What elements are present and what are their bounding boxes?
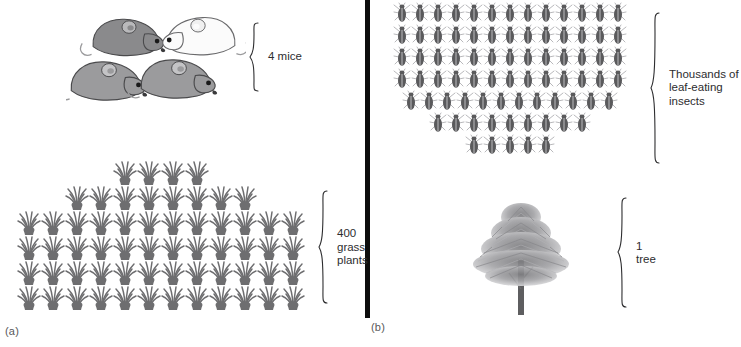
beetle-icon bbox=[501, 46, 519, 68]
grass-tuft-icon bbox=[161, 235, 185, 260]
grass-tuft-icon bbox=[281, 235, 305, 260]
beetle-icon bbox=[501, 68, 519, 90]
beetle-icon bbox=[483, 46, 501, 68]
beetle-icon bbox=[411, 24, 429, 46]
beetle-icon bbox=[582, 90, 600, 112]
beetle-icon bbox=[555, 2, 573, 24]
beetle-icon bbox=[591, 46, 609, 68]
grass-tuft-icon bbox=[41, 260, 65, 285]
beetle-icon bbox=[609, 68, 627, 90]
beetle-icon bbox=[519, 2, 537, 24]
curly-brace-icon bbox=[617, 197, 629, 309]
grass-plants-label: 400 grass plants bbox=[337, 227, 368, 268]
beetle-icon bbox=[591, 68, 609, 90]
beetle-icon bbox=[609, 2, 627, 24]
beetle-icon bbox=[609, 24, 627, 46]
grass-tuft-icon bbox=[161, 260, 185, 285]
organism-row bbox=[376, 90, 644, 112]
beetle-icon bbox=[474, 90, 492, 112]
grass-tuft-icon bbox=[233, 185, 257, 210]
grass-tuft-icon bbox=[113, 235, 137, 260]
beetle-icon bbox=[429, 68, 447, 90]
curly-brace-icon bbox=[650, 12, 662, 164]
grass-tuft-icon bbox=[161, 285, 185, 310]
beetle-icon bbox=[501, 24, 519, 46]
grass-tuft-icon bbox=[89, 285, 113, 310]
beetle-icon bbox=[555, 24, 573, 46]
beetle-icon bbox=[465, 2, 483, 24]
beetle-icon bbox=[555, 68, 573, 90]
grass-tuft-icon bbox=[185, 260, 209, 285]
beetle-icon bbox=[564, 90, 582, 112]
beetle-icon bbox=[573, 68, 591, 90]
beetle-icon bbox=[519, 68, 537, 90]
beetle-icon bbox=[465, 134, 483, 156]
organism-row bbox=[376, 46, 644, 68]
grass-tuft-icon bbox=[233, 285, 257, 310]
grass-tuft-icon bbox=[17, 285, 41, 310]
organism-row bbox=[6, 185, 316, 210]
beetle-icon bbox=[537, 68, 555, 90]
grass-tuft-icon bbox=[209, 185, 233, 210]
mice-brace-group: 4 mice bbox=[249, 22, 302, 92]
grass-tuft-icon bbox=[41, 285, 65, 310]
mouse-icon bbox=[66, 62, 147, 100]
organism-row bbox=[6, 235, 316, 260]
grass-brace-group: 400 grass plants bbox=[318, 190, 368, 305]
grass-tuft-icon bbox=[281, 210, 305, 235]
beetle-icon bbox=[483, 112, 501, 134]
grass-tuft-icon bbox=[113, 285, 137, 310]
grass-tuft-icon bbox=[17, 235, 41, 260]
beetle-icon bbox=[447, 2, 465, 24]
organism-row bbox=[6, 160, 316, 185]
beetle-icon bbox=[537, 24, 555, 46]
beetle-icon bbox=[537, 46, 555, 68]
beetle-icon bbox=[420, 90, 438, 112]
beetle-icon bbox=[519, 46, 537, 68]
grass-tuft-icon bbox=[209, 235, 233, 260]
grass-tuft-icon bbox=[161, 210, 185, 235]
beetle-icon bbox=[600, 90, 618, 112]
beetle-icon bbox=[393, 2, 411, 24]
tree-brace-group: 1 tree bbox=[617, 197, 656, 309]
organism-row bbox=[6, 210, 316, 235]
grass-tuft-icon bbox=[281, 285, 305, 310]
beetle-icon bbox=[519, 134, 537, 156]
beetle-icon bbox=[537, 2, 555, 24]
beetle-icon bbox=[483, 68, 501, 90]
beetle-icon bbox=[537, 112, 555, 134]
beetle-icon bbox=[573, 46, 591, 68]
insects-grid bbox=[376, 2, 644, 156]
grass-tuft-icon bbox=[257, 260, 281, 285]
beetle-icon bbox=[429, 24, 447, 46]
grass-tuft-icon bbox=[113, 160, 137, 185]
beetle-icon bbox=[447, 68, 465, 90]
grass-tuft-icon bbox=[137, 260, 161, 285]
grass-tuft-icon bbox=[41, 235, 65, 260]
beetle-icon bbox=[573, 24, 591, 46]
beetle-icon bbox=[555, 112, 573, 134]
organism-row bbox=[376, 2, 644, 24]
beetle-icon bbox=[393, 46, 411, 68]
beetle-icon bbox=[438, 90, 456, 112]
grass-tuft-icon bbox=[89, 260, 113, 285]
grass-tuft-icon bbox=[257, 285, 281, 310]
grass-tuft-icon bbox=[65, 235, 89, 260]
beetle-icon bbox=[483, 2, 501, 24]
grass-tuft-icon bbox=[41, 210, 65, 235]
organism-row bbox=[376, 112, 644, 134]
grass-tuft-icon bbox=[89, 185, 113, 210]
beetle-icon bbox=[447, 24, 465, 46]
beetle-icon bbox=[465, 112, 483, 134]
grass-tuft-icon bbox=[185, 235, 209, 260]
grass-tuft-icon bbox=[233, 260, 257, 285]
beetle-icon bbox=[411, 46, 429, 68]
beetle-icon bbox=[429, 2, 447, 24]
grass-tuft-icon bbox=[281, 260, 305, 285]
mice-illustration bbox=[66, 2, 246, 114]
grass-tuft-icon bbox=[137, 210, 161, 235]
beetle-icon bbox=[501, 112, 519, 134]
grass-tuft-icon bbox=[113, 260, 137, 285]
grass-tuft-icon bbox=[137, 160, 161, 185]
ecological-pyramid-figure: 4 mice bbox=[0, 0, 741, 347]
